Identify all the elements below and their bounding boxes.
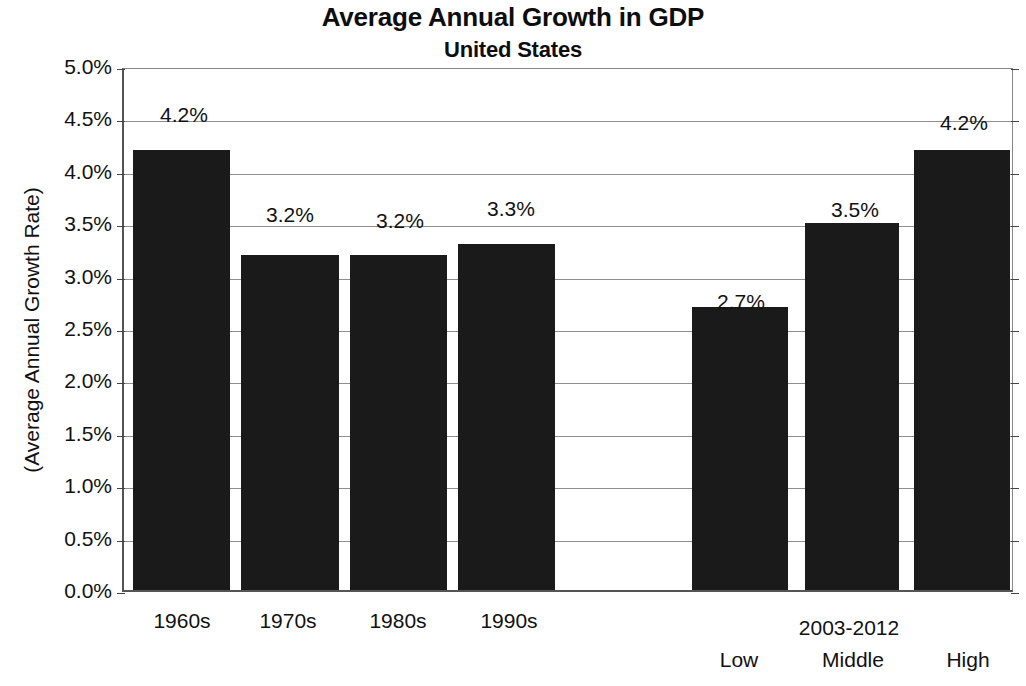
- y-tick-label: 1.5%: [40, 422, 112, 446]
- y-tick-mark-right: [1011, 383, 1019, 384]
- y-tick-label: 2.0%: [40, 369, 112, 393]
- gridline: [124, 174, 1012, 175]
- y-tick-mark-right: [1011, 541, 1019, 542]
- bar-value-label-low: 2.7%: [696, 290, 786, 314]
- y-tick-mark-right: [1011, 279, 1019, 280]
- y-tick-mark-right: [1011, 436, 1019, 437]
- gridline: [124, 121, 1012, 122]
- bar-1980s: [350, 255, 447, 590]
- bar-value-label-1960s: 4.2%: [139, 103, 229, 127]
- y-tick-label: 4.0%: [40, 160, 112, 184]
- gdp-growth-bar-chart: Average Annual Growth in GDP United Stat…: [0, 0, 1026, 686]
- bar-1990s: [458, 244, 555, 590]
- bar-low: [692, 307, 788, 590]
- bar-value-label-middle: 3.5%: [810, 198, 900, 222]
- bar-1970s: [241, 255, 339, 590]
- bar-value-label-high: 4.2%: [919, 111, 1009, 135]
- x-tick-label-1960s: 1960s: [122, 609, 242, 633]
- y-tick-label: 0.5%: [40, 527, 112, 551]
- y-tick-mark: [117, 69, 125, 70]
- y-tick-mark: [117, 174, 125, 175]
- y-tick-mark: [117, 593, 125, 594]
- y-tick-label: 3.0%: [40, 265, 112, 289]
- y-tick-mark: [117, 541, 125, 542]
- bar-1960s: [133, 150, 230, 590]
- x-tick-label-middle: Middle: [793, 648, 913, 672]
- x-tick-label-1970s: 1970s: [228, 609, 348, 633]
- y-tick-label: 1.0%: [40, 474, 112, 498]
- y-tick-mark: [117, 331, 125, 332]
- y-tick-mark: [117, 279, 125, 280]
- bar-value-label-1990s: 3.3%: [466, 197, 556, 221]
- y-tick-mark-right: [1011, 174, 1019, 175]
- y-tick-mark-right: [1011, 121, 1019, 122]
- y-tick-label: 4.5%: [40, 107, 112, 131]
- y-tick-mark-right: [1011, 226, 1019, 227]
- x-group-label-0: 2003-2012: [749, 616, 949, 640]
- y-tick-mark: [117, 488, 125, 489]
- chart-subtitle: United States: [0, 37, 1026, 63]
- y-tick-label: 2.5%: [40, 317, 112, 341]
- y-tick-mark: [117, 226, 125, 227]
- y-tick-label: 5.0%: [40, 55, 112, 79]
- y-tick-mark-right: [1011, 69, 1019, 70]
- bar-high: [914, 150, 1010, 590]
- plot-area: 4.2%3.2%3.2%3.3%2.7%3.5%4.2%: [122, 68, 1013, 592]
- bar-value-label-1980s: 3.2%: [355, 209, 445, 233]
- y-tick-mark-right: [1011, 488, 1019, 489]
- x-tick-label-1990s: 1990s: [449, 609, 569, 633]
- y-tick-mark: [117, 436, 125, 437]
- chart-title: Average Annual Growth in GDP: [0, 2, 1026, 33]
- y-tick-label: 3.5%: [40, 212, 112, 236]
- y-tick-mark-right: [1011, 331, 1019, 332]
- x-tick-label-low: Low: [679, 648, 799, 672]
- y-tick-mark: [117, 383, 125, 384]
- y-tick-label: 0.0%: [40, 579, 112, 603]
- y-tick-mark-right: [1011, 593, 1019, 594]
- bar-value-label-1970s: 3.2%: [245, 203, 335, 227]
- bar-middle: [805, 223, 899, 590]
- y-tick-mark: [117, 121, 125, 122]
- x-tick-label-high: High: [908, 648, 1026, 672]
- x-tick-label-1980s: 1980s: [338, 609, 458, 633]
